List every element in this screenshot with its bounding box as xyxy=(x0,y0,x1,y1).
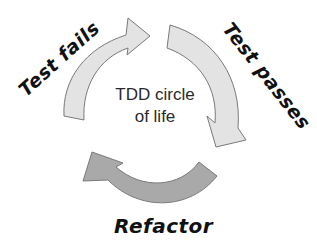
tdd-cycle-diagram: TDD circle of life Test fails Test passe… xyxy=(0,0,317,251)
stage-label-refactor: Refactor xyxy=(114,214,213,238)
center-label-line1: TDD circle xyxy=(100,84,210,106)
refactor-arrow-icon xyxy=(83,152,217,203)
center-label-line2: of life xyxy=(100,106,210,128)
center-label: TDD circle of life xyxy=(100,84,210,128)
